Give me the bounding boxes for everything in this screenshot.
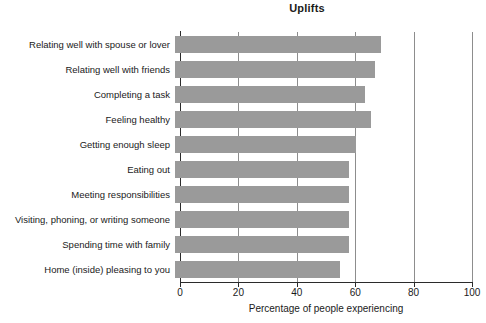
- category-label: Feeling healthy: [0, 115, 175, 125]
- bar: [175, 36, 381, 53]
- x-tick-label: 20: [233, 287, 244, 298]
- bar: [175, 86, 365, 103]
- category-label: Getting enough sleep: [0, 140, 175, 150]
- bar: [175, 261, 340, 278]
- bar-track: [175, 257, 481, 282]
- table-row: Completing a task: [0, 82, 486, 107]
- x-tick-label: 80: [408, 287, 419, 298]
- table-row: Eating out: [0, 157, 486, 182]
- bar-track: [175, 182, 481, 207]
- bar-track: [175, 207, 481, 232]
- chart-title: Uplifts: [0, 2, 486, 14]
- bar-track: [175, 232, 481, 257]
- bar-track: [175, 132, 481, 157]
- bar: [175, 236, 349, 253]
- x-tick-label: 40: [291, 287, 302, 298]
- table-row: Relating well with friends: [0, 57, 486, 82]
- bar-rows: Relating well with spouse or loverRelati…: [0, 32, 486, 282]
- bar: [175, 211, 349, 228]
- category-label: Eating out: [0, 165, 175, 175]
- bar: [175, 61, 375, 78]
- x-tick-label: 60: [350, 287, 361, 298]
- category-label: Completing a task: [0, 90, 175, 100]
- bar: [175, 136, 356, 153]
- table-row: Relating well with spouse or lover: [0, 32, 486, 57]
- category-label: Relating well with friends: [0, 65, 175, 75]
- table-row: Feeling healthy: [0, 107, 486, 132]
- x-tick-label: 100: [464, 287, 481, 298]
- table-row: Meeting responsibilities: [0, 182, 486, 207]
- bar-track: [175, 82, 481, 107]
- category-label: Meeting responsibilities: [0, 190, 175, 200]
- x-tick-label: 0: [177, 287, 183, 298]
- bar-track: [175, 107, 481, 132]
- bar-track: [175, 32, 481, 57]
- bar: [175, 161, 349, 178]
- bar-track: [175, 157, 481, 182]
- table-row: Home (inside) pleasing to you: [0, 257, 486, 282]
- bar-chart: Uplifts Relating well with spouse or lov…: [0, 0, 486, 323]
- table-row: Getting enough sleep: [0, 132, 486, 157]
- category-label: Spending time with family: [0, 240, 175, 250]
- x-axis-label: Percentage of people experiencing: [180, 303, 472, 314]
- category-label: Visiting, phoning, or writing someone: [0, 215, 175, 225]
- x-axis-ticks: 020406080100: [0, 283, 486, 299]
- bar-track: [175, 57, 481, 82]
- bar: [175, 186, 349, 203]
- table-row: Spending time with family: [0, 232, 486, 257]
- category-label: Relating well with spouse or lover: [0, 40, 175, 50]
- category-label: Home (inside) pleasing to you: [0, 265, 175, 275]
- table-row: Visiting, phoning, or writing someone: [0, 207, 486, 232]
- bar: [175, 111, 371, 128]
